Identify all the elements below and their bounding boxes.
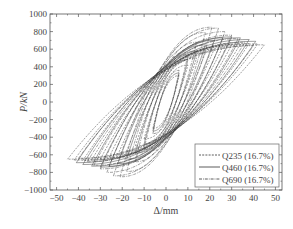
x-tick-label: −40 bbox=[71, 193, 86, 203]
y-tick-label: 600 bbox=[34, 44, 48, 54]
y-tick-label: −1000 bbox=[24, 185, 48, 195]
y-tick-label: −200 bbox=[28, 115, 47, 125]
x-tick-label: −50 bbox=[50, 193, 65, 203]
legend-item-label: Q235 (16.7%) bbox=[222, 151, 274, 161]
x-axis-label: Δ/mm bbox=[154, 205, 179, 216]
x-tick-label: −10 bbox=[137, 193, 152, 203]
hysteresis-chart: 10008006004002000−200−400−600−800−1000 −… bbox=[0, 0, 293, 229]
y-tick-label: −800 bbox=[28, 167, 47, 177]
legend-item-label: Q690 (16.7%) bbox=[222, 175, 274, 185]
y-tick-label: 200 bbox=[34, 79, 48, 89]
x-tick-label: −20 bbox=[115, 193, 130, 203]
x-tick-label: 0 bbox=[164, 193, 169, 203]
y-tick-label: 0 bbox=[43, 97, 48, 107]
legend-item-label: Q460 (16.7%) bbox=[222, 163, 274, 173]
x-tick-label: 20 bbox=[205, 193, 215, 203]
y-tick-label: 400 bbox=[34, 62, 48, 72]
x-tick-label: −30 bbox=[93, 193, 108, 203]
y-tick-label: −600 bbox=[28, 150, 47, 160]
legend: Q235 (16.7%)Q460 (16.7%)Q690 (16.7%) bbox=[195, 144, 279, 187]
y-axis-label: P/kN bbox=[18, 91, 29, 113]
x-tick-label: 40 bbox=[249, 193, 259, 203]
y-tick-label: −400 bbox=[28, 132, 47, 142]
series-0 bbox=[68, 44, 265, 161]
y-tick-label: 1000 bbox=[29, 9, 48, 19]
x-tick-label: 30 bbox=[227, 193, 237, 203]
x-tick-label: 50 bbox=[271, 193, 281, 203]
x-tick-label: 10 bbox=[183, 193, 193, 203]
y-tick-label: 800 bbox=[34, 27, 48, 37]
